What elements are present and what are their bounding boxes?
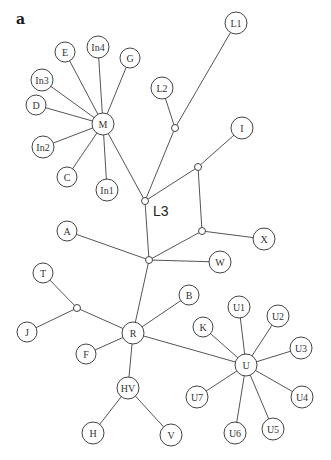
node-X: X [253,228,275,250]
node-label: U6 [229,428,241,439]
nodes-layer: MEIn4GIn3DIn2CIn1L1L2IAXWTBJRFHVHVKUU1U2… [17,12,313,446]
node-label: J [25,327,29,338]
panel-label: a [16,11,25,27]
junction-point [146,257,153,264]
node-U: U [235,354,257,376]
junction-label: L3 [153,203,169,219]
edge-jX-jC [149,231,202,260]
junction-point [199,228,206,235]
node-label: F [83,349,89,360]
node-label: U3 [295,343,307,354]
node-E: E [55,42,75,62]
node-label: D [32,100,39,111]
node-D: D [26,95,46,115]
node-R: R [122,322,144,344]
node-label: C [64,172,71,183]
junction-point [74,305,81,312]
node-U5: U5 [262,418,284,440]
node-V: V [160,424,182,446]
node-label: G [126,53,133,64]
node-U7: U7 [186,386,208,408]
node-label: U4 [296,392,308,403]
node-label: E [62,47,68,58]
node-U6: U6 [224,422,246,444]
node-label: U2 [272,311,284,322]
node-In3: In3 [31,69,53,91]
junction-point [142,198,149,205]
edge-jL2-jL3 [145,128,175,201]
node-label: I [240,123,243,134]
node-label: In1 [100,185,113,196]
node-label: W [215,257,225,268]
junctions-layer: L3 [74,125,206,312]
node-label: L1 [230,18,241,29]
node-label: U1 [233,302,245,313]
node-U1: U1 [228,296,250,318]
node-label: In3 [35,75,48,86]
node-I: I [231,117,253,139]
node-label: In4 [91,42,104,53]
node-label: A [63,226,71,237]
node-G: G [120,48,140,68]
node-A: A [57,221,77,241]
node-L2: L2 [151,77,173,99]
node-K: K [193,317,213,337]
node-label: L2 [156,83,167,94]
node-label: R [130,328,137,339]
node-HV: HV [117,377,139,399]
node-J: J [17,322,37,342]
node-label: U5 [267,424,279,435]
node-U2: U2 [267,305,289,327]
edge-jI-jX [198,167,202,231]
node-H: H [82,422,104,444]
node-label: In2 [36,142,49,153]
node-C: C [57,167,77,187]
node-label: V [167,430,175,441]
node-T: T [33,263,53,283]
node-label: K [199,322,207,333]
node-label: HV [121,383,136,394]
node-In1: In1 [96,179,118,201]
node-In2: In2 [32,136,54,158]
node-label: T [40,268,46,279]
node-M: M [92,113,114,135]
node-W: W [209,251,231,273]
node-label: M [99,119,108,130]
node-L1: L1 [225,12,247,34]
edge-R-U [133,333,246,365]
node-F: F [76,344,96,364]
edge-L1-jL2 [175,23,236,128]
node-U4: U4 [291,386,313,408]
network-diagram: a L3 MEIn4GIn3DIn2CIn1L1L2IAXWTBJRFHVHVK… [0,0,331,460]
junction-point [195,164,202,171]
node-U3: U3 [290,337,312,359]
node-label: U [242,360,250,371]
node-In4: In4 [87,36,109,58]
node-label: U7 [191,392,203,403]
node-label: H [89,428,96,439]
edge-jL3-jC [145,201,149,260]
edge-M-In4 [98,47,103,124]
node-label: X [260,234,268,245]
node-label: B [186,290,193,301]
node-B: B [179,285,199,305]
edge-M-E [65,52,103,124]
junction-point [172,125,179,132]
edge-A-jC [67,231,149,260]
edge-jL3-jI [145,167,198,201]
